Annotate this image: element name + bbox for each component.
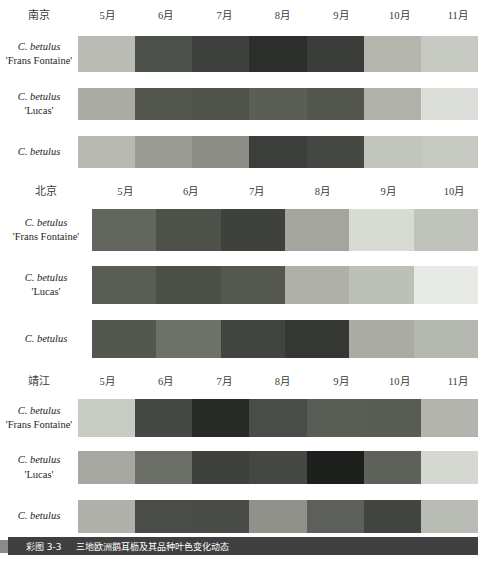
month-label: 11月 xyxy=(429,373,487,388)
month-label: 9月 xyxy=(355,183,421,198)
heatmap-cell xyxy=(414,209,478,251)
caption-number: 彩图 3-3 xyxy=(26,540,62,553)
heatmap-cell xyxy=(414,320,478,358)
series-taxon: C. betulus xyxy=(25,217,68,228)
heatmap-cell xyxy=(192,399,249,437)
site-label-nanjing: 南京 xyxy=(0,6,78,22)
month-label: 9月 xyxy=(312,7,370,22)
heatmap-cell xyxy=(307,451,364,484)
series-row: C. betulus xyxy=(0,500,487,533)
month-label: 8月 xyxy=(253,7,311,22)
series-label: C. betulus 'Lucas' xyxy=(0,453,78,481)
series-taxon: C. betulus xyxy=(18,405,61,416)
month-header-beijing: 北京 5月 6月 7月 8月 9月 10月 xyxy=(0,180,487,200)
heatmap-cell xyxy=(421,451,478,484)
heatmap-cell xyxy=(192,88,249,120)
series-taxon: C. betulus xyxy=(18,91,61,102)
month-label: 6月 xyxy=(136,7,194,22)
month-labels-beijing: 5月 6月 7月 8月 9月 10月 xyxy=(92,183,487,198)
heatmap-cell xyxy=(249,500,306,533)
series-row: C. betulus 'Lucas' xyxy=(0,88,487,120)
series-label: C. betulus 'Lucas' xyxy=(0,90,78,118)
month-label: 10月 xyxy=(370,373,428,388)
month-label: 8月 xyxy=(253,373,311,388)
series-label: C. betulus xyxy=(0,509,78,523)
series-label: C. betulus 'Frans Fontaine' xyxy=(0,40,78,68)
series-label: C. betulus xyxy=(0,145,78,159)
month-label: 7月 xyxy=(224,183,290,198)
series-row: C. betulus xyxy=(0,320,487,358)
heatmap-cell xyxy=(364,451,421,484)
heatmap-cell xyxy=(249,136,306,168)
heatmap-cell xyxy=(78,500,135,533)
series-row: C. betulus 'Frans Fontaine' xyxy=(0,209,487,251)
heatmap-cell xyxy=(307,136,364,168)
heatmap-cell xyxy=(285,209,349,251)
month-label: 10月 xyxy=(421,183,487,198)
heatmap-cell xyxy=(135,451,192,484)
series-label: C. betulus 'Frans Fontaine' xyxy=(0,216,92,244)
heatmap-cell xyxy=(349,266,413,304)
month-label: 5月 xyxy=(78,7,136,22)
heatmap-cell xyxy=(78,399,135,437)
heatmap-cell xyxy=(349,209,413,251)
heatmap-cell xyxy=(156,320,220,358)
heatmap-strip xyxy=(78,36,478,72)
heatmap-cell xyxy=(192,500,249,533)
month-header-jingjiang: 靖江 5月 6月 7月 8月 9月 10月 11月 xyxy=(0,370,487,390)
series-label: C. betulus xyxy=(0,332,92,346)
month-label: 8月 xyxy=(289,183,355,198)
series-label: C. betulus 'Frans Fontaine' xyxy=(0,404,78,432)
month-header-nanjing: 南京 5月 6月 7月 8月 9月 10月 11月 xyxy=(0,4,487,24)
heatmap-strip xyxy=(92,266,478,304)
heatmap-cell xyxy=(421,136,478,168)
month-labels-jingjiang: 5月 6月 7月 8月 9月 10月 11月 xyxy=(78,373,487,388)
heatmap-cell xyxy=(364,500,421,533)
heatmap-cell xyxy=(364,399,421,437)
series-taxon: C. betulus xyxy=(18,510,61,521)
heatmap-cell xyxy=(364,88,421,120)
heatmap-cell xyxy=(78,88,135,120)
heatmap-cell xyxy=(221,266,285,304)
heatmap-strip xyxy=(78,88,478,120)
heatmap-cell xyxy=(78,36,135,72)
heatmap-cell xyxy=(414,266,478,304)
heatmap-cell xyxy=(221,209,285,251)
heatmap-cell xyxy=(249,451,306,484)
series-cultivar: 'Frans Fontaine' xyxy=(0,54,78,68)
heatmap-cell xyxy=(221,320,285,358)
series-cultivar: 'Lucas' xyxy=(0,104,78,118)
series-taxon: C. betulus xyxy=(18,146,61,157)
heatmap-cell xyxy=(92,209,156,251)
caption-text: 三地欧洲鹅耳枥及其品种叶色变化动态 xyxy=(76,540,229,553)
heatmap-cell xyxy=(249,88,306,120)
month-label: 5月 xyxy=(78,373,136,388)
heatmap-cell xyxy=(135,36,192,72)
month-label: 10月 xyxy=(370,7,428,22)
heatmap-cell xyxy=(135,399,192,437)
series-row: C. betulus xyxy=(0,136,487,168)
heatmap-cell xyxy=(192,36,249,72)
heatmap-cell xyxy=(421,88,478,120)
figure-container: 南京 5月 6月 7月 8月 9月 10月 11月 C. betulus 'Fr… xyxy=(0,0,487,587)
figure-caption: 彩图 3-3 三地欧洲鹅耳枥及其品种叶色变化动态 xyxy=(8,537,478,555)
heatmap-cell xyxy=(135,136,192,168)
heatmap-cell xyxy=(285,320,349,358)
series-label: C. betulus 'Lucas' xyxy=(0,271,92,299)
site-label-beijing: 北京 xyxy=(0,182,92,198)
month-label: 11月 xyxy=(429,7,487,22)
heatmap-strip xyxy=(92,320,478,358)
month-label: 6月 xyxy=(158,183,224,198)
series-taxon: C. betulus xyxy=(25,272,68,283)
heatmap-cell xyxy=(349,320,413,358)
series-taxon: C. betulus xyxy=(25,333,68,344)
heatmap-cell xyxy=(192,136,249,168)
heatmap-cell xyxy=(92,266,156,304)
series-cultivar: 'Frans Fontaine' xyxy=(0,418,78,432)
heatmap-cell xyxy=(156,209,220,251)
series-cultivar: 'Lucas' xyxy=(0,468,78,482)
heatmap-strip xyxy=(92,209,478,251)
heatmap-cell xyxy=(307,36,364,72)
heatmap-strip xyxy=(78,136,478,168)
heatmap-strip xyxy=(78,399,478,437)
